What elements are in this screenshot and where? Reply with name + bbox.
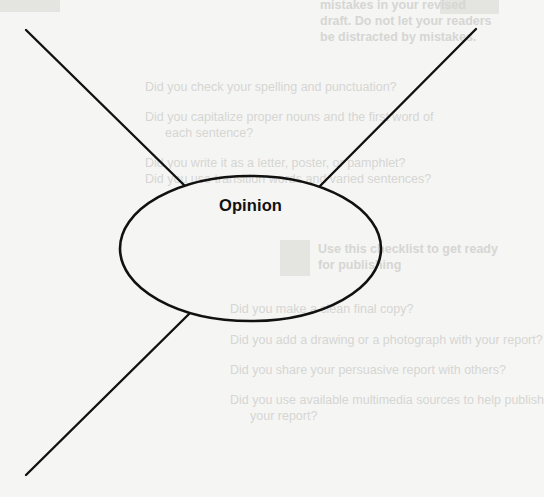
branch-line-top-left: [26, 30, 184, 185]
branch-line-bottom-left: [26, 314, 189, 475]
center-label-opinion: Opinion: [190, 196, 311, 215]
branch-line-top-right: [320, 29, 476, 186]
